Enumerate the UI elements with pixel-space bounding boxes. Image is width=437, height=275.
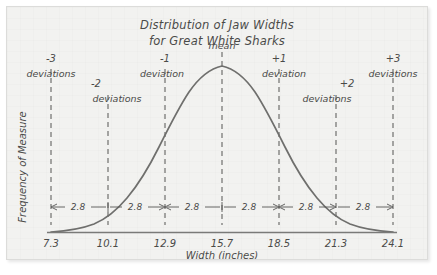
x-tick-label-3: 15.7 bbox=[211, 238, 234, 249]
sigma-label-+1-number: +1 bbox=[272, 53, 287, 64]
x-tick-label-5: 21.3 bbox=[325, 238, 347, 249]
sigma-label-+2-word: deviations bbox=[302, 93, 351, 104]
x-axis-label: Width (inches) bbox=[186, 250, 259, 259]
interval-label-1: 2.8 bbox=[71, 202, 86, 212]
sigma-label--1-word: deviation bbox=[140, 68, 184, 79]
y-axis-label: Frequency of Measure bbox=[17, 111, 28, 222]
chart-figure: Distribution of Jaw Widths for Great Whi… bbox=[6, 6, 428, 260]
sigma-label-+3-word: deviations bbox=[368, 68, 417, 79]
distribution-plot: Distribution of Jaw Widths for Great Whi… bbox=[7, 7, 427, 259]
x-tick-label-4: 18.5 bbox=[268, 238, 290, 249]
x-tick-label-1: 10.1 bbox=[97, 238, 119, 249]
interval-measure-row: 2.8 2.8 2.8 2.8 2.8 bbox=[51, 202, 393, 212]
sigma-label--1-number: -1 bbox=[160, 53, 170, 64]
x-axis-tick-labels: 7.3 10.1 12.9 15.7 18.5 21.3 24.1 bbox=[43, 238, 404, 249]
interval-label-2: 2.8 bbox=[128, 202, 143, 212]
sigma-label-+2-number: +2 bbox=[340, 78, 355, 89]
interval-label-5: 2.8 bbox=[299, 202, 314, 212]
sigma-label-+3-number: +3 bbox=[386, 53, 401, 64]
interval-label-3: 2.8 bbox=[185, 202, 200, 212]
x-tick-label-2: 12.9 bbox=[154, 238, 176, 249]
sigma-label--3-word: deviations bbox=[26, 68, 75, 79]
sigma-label--3-number: -3 bbox=[46, 53, 56, 64]
chart-title-line1: Distribution of Jaw Widths bbox=[140, 18, 294, 32]
x-tick-label-6: 24.1 bbox=[382, 238, 404, 249]
interval-label-4: 2.8 bbox=[242, 202, 257, 212]
x-tick-label-0: 7.3 bbox=[43, 238, 59, 249]
sigma-label-+1-word: deviation bbox=[262, 68, 306, 79]
sigma-label--2-word: deviations bbox=[92, 93, 141, 104]
interval-label-6: 2.8 bbox=[356, 202, 371, 212]
sigma-label-mean: mean bbox=[209, 40, 236, 51]
sigma-label--2-number: -2 bbox=[91, 78, 101, 89]
